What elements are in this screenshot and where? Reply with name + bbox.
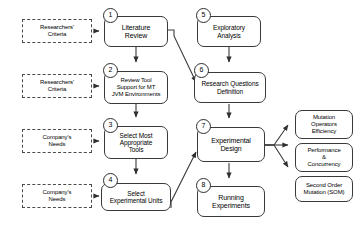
outcome-label: Second Order Mutation (SOM) (302, 182, 347, 195)
input-researchers-criteria-1: Researchers' Criteria (22, 19, 92, 43)
step-label: Research Questions Definition (199, 80, 260, 95)
flowchart-diagram: Researchers' Criteria Researchers' Crite… (0, 0, 362, 228)
step-number-3: 3 (103, 118, 118, 133)
step-label: Literature Review (120, 24, 153, 40)
step-number-5: 5 (196, 8, 211, 23)
input-companys-needs-1: Company's Needs (22, 129, 92, 153)
step-label: Exploratory Analysis (211, 24, 247, 39)
step-number-4: 4 (103, 173, 118, 188)
edge-step7-to-outcome3 (265, 145, 288, 167)
edge-step7-to-outcome1 (265, 125, 288, 145)
input-label: Company's Needs (41, 189, 74, 202)
input-companys-needs-2: Company's Needs (22, 184, 92, 208)
step-number-1: 1 (103, 8, 118, 23)
input-label: Researchers' Criteria (38, 24, 76, 37)
step-label: Review Tool Support for MT JVM Environme… (110, 77, 163, 97)
outcome-label: Mutation Operators Efficiency (309, 114, 339, 134)
step-number-6: 6 (194, 63, 209, 78)
step-number-2: 2 (103, 63, 118, 78)
outcome-second-order-mutation: Second Order Mutation (SOM) (295, 176, 353, 202)
step-label: Select Experimental Units (108, 190, 165, 205)
outcome-label: Performance & Concurrency (305, 147, 342, 167)
input-researchers-criteria-2: Researchers' Criteria (22, 74, 92, 98)
input-label: Company's Needs (41, 134, 74, 147)
step-label: Select Most Appropriate Tools (118, 132, 155, 154)
step-number-7: 7 (196, 119, 211, 134)
outcome-performance-concurrency: Performance & Concurrency (295, 143, 353, 172)
step-label: Experimental Design (209, 137, 253, 153)
edge-step1-to-step6 (168, 30, 196, 82)
edge-step4-to-step7 (171, 152, 196, 208)
step-number-8: 8 (196, 178, 211, 193)
outcome-mutation-operators-efficiency: Mutation Operators Efficiency (295, 110, 353, 139)
input-label: Researchers' Criteria (38, 79, 76, 92)
step-label: Running Experiments (210, 194, 252, 210)
